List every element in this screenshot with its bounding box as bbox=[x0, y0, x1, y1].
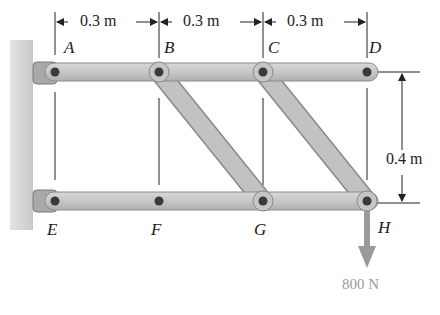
pin-e bbox=[51, 197, 60, 206]
wall-support bbox=[10, 40, 33, 230]
pin-g bbox=[259, 197, 268, 206]
dimension-vertical: 0.4 m bbox=[384, 150, 424, 168]
joint-label-g: G bbox=[254, 220, 266, 240]
pin-a bbox=[51, 68, 60, 77]
pin-f bbox=[155, 197, 164, 206]
frame-diagram: A B C D E F G H 0.3 m 0.3 m 0.3 m 0.4 m … bbox=[0, 0, 440, 315]
joint-label-d: D bbox=[369, 38, 381, 58]
joint-label-h: H bbox=[378, 218, 390, 238]
dimension-cd: 0.3 m bbox=[287, 12, 323, 30]
joint-label-f: F bbox=[151, 220, 161, 240]
pin-c bbox=[259, 68, 268, 77]
load-label: 800 N bbox=[342, 276, 379, 293]
dimension-ab: 0.3 m bbox=[80, 12, 116, 30]
joint-label-a: A bbox=[64, 38, 74, 58]
member-ad bbox=[45, 63, 378, 81]
pin-b bbox=[155, 68, 164, 77]
joint-label-e: E bbox=[47, 220, 57, 240]
pin-d bbox=[363, 68, 372, 77]
dimension-bc: 0.3 m bbox=[183, 12, 219, 30]
joint-label-b: B bbox=[164, 38, 174, 58]
member-eh bbox=[45, 192, 378, 210]
pin-h bbox=[363, 197, 372, 206]
load-arrow-icon bbox=[358, 210, 376, 268]
joint-label-c: C bbox=[268, 38, 279, 58]
